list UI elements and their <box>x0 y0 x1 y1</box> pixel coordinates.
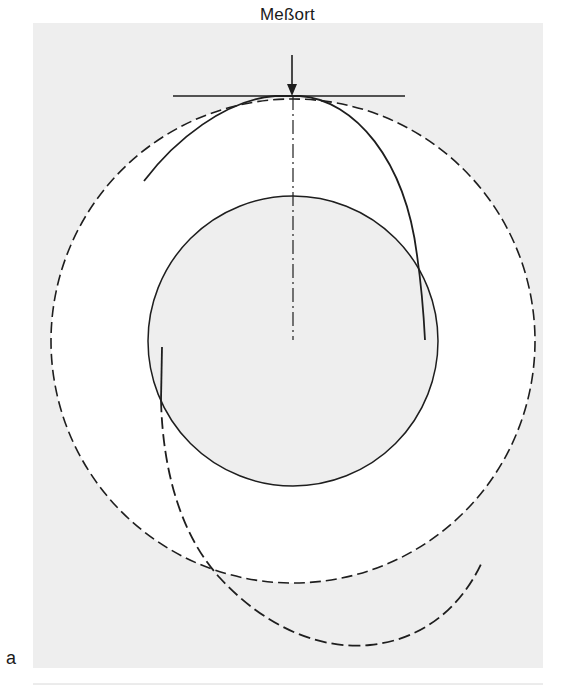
measurement-location-label: Meßort <box>260 5 315 25</box>
diagram-canvas <box>0 0 573 689</box>
annulus-fill <box>0 0 573 689</box>
panel-label: a <box>6 648 16 669</box>
lower-spiral-curve-solid <box>161 347 162 400</box>
spiral-measurement-diagram: Meßort a <box>0 0 573 689</box>
